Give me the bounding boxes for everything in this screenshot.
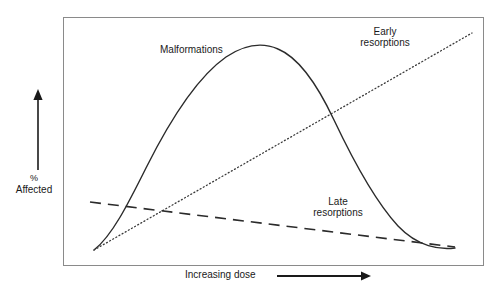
up-arrow-icon (5, 86, 63, 172)
figure-root: Malformations Early resorptions Late res… (0, 0, 503, 293)
annotation-early-resorptions: Early resorptions (352, 26, 418, 48)
annotation-malformations: Malformations (160, 44, 223, 55)
x-axis-label-group: Increasing dose (185, 269, 375, 287)
right-arrow-icon (275, 269, 375, 283)
annotation-early-resorptions-line1: Early (374, 26, 397, 37)
y-axis-label-group: % Affected (5, 86, 63, 201)
x-axis-label: Increasing dose (185, 269, 256, 281)
y-axis-label: % Affected (5, 172, 63, 196)
annotation-late-resorptions-line2: resorptions (313, 207, 362, 218)
y-axis-label-affected: Affected (5, 184, 63, 196)
annotation-late-resorptions: Late resorptions (300, 196, 376, 218)
plot-frame (63, 17, 484, 266)
annotation-late-resorptions-line1: Late (328, 196, 347, 207)
annotation-early-resorptions-line2: resorptions (360, 37, 409, 48)
y-axis-label-percent: % (5, 172, 63, 184)
